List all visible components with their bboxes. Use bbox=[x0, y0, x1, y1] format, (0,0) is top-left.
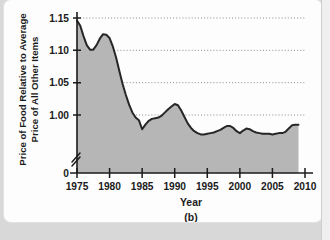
panel-caption: (b) bbox=[184, 212, 197, 222]
y-tick-label-1.00: 1.00 bbox=[49, 110, 69, 121]
x-axis-title: Year bbox=[180, 197, 202, 208]
y-tick-label-1.10: 1.10 bbox=[49, 45, 69, 56]
y-tick-label-zero: 0 bbox=[63, 168, 69, 179]
chart-plot-area: 1.001.051.101.15019751980198519901995200… bbox=[4, 0, 322, 222]
x-tick-label-1975: 1975 bbox=[66, 181, 89, 192]
x-tick-label-2000: 2000 bbox=[229, 181, 252, 192]
page-right-edge bbox=[321, 0, 330, 240]
x-tick-label-1995: 1995 bbox=[196, 181, 219, 192]
data-area-fill bbox=[77, 21, 298, 173]
x-tick-label-2005: 2005 bbox=[261, 181, 284, 192]
y-tick-label-1.05: 1.05 bbox=[49, 77, 69, 88]
figure-card: 1.001.051.101.15019751980198519901995200… bbox=[4, 0, 322, 222]
y-axis-title-line2: Price of All Other Items bbox=[29, 37, 40, 143]
x-tick-label-1990: 1990 bbox=[163, 181, 186, 192]
y-axis-title-line1: Price of Food Relative to Average bbox=[17, 13, 28, 165]
x-tick-label-1980: 1980 bbox=[98, 181, 121, 192]
x-tick-label-2010: 2010 bbox=[294, 181, 317, 192]
y-tick-label-1.15: 1.15 bbox=[49, 13, 69, 24]
price-of-food-chart: 1.001.051.101.15019751980198519901995200… bbox=[4, 0, 322, 222]
x-tick-label-1985: 1985 bbox=[131, 181, 154, 192]
